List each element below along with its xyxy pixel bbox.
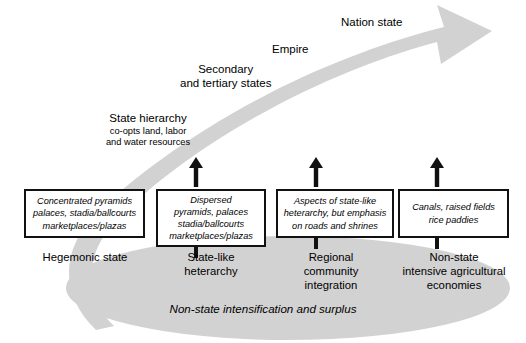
curve-label-empire: Empire (272, 43, 308, 57)
box-1-line-3: marketplaces/plazas (43, 221, 127, 231)
state-hierarchy-heading: State hierarchy (82, 112, 214, 126)
curve-label-nation-state: Nation state (341, 16, 402, 30)
caption-4-line-3: economies (427, 279, 482, 291)
caption-3-line-2: community (304, 265, 359, 277)
curve-label-state-hierarchy: State hierarchy co-opts land, labor and … (82, 112, 214, 148)
box-2-line-3: stadia/ballcourts (178, 219, 244, 229)
box-state-like-heterarchy-text: Dispersed pyramids, palaces stadia/ballc… (166, 194, 256, 243)
state-hierarchy-subline-2: and water resources (82, 137, 214, 148)
caption-4-line-2: intensive agricultural (403, 265, 506, 277)
box-3-line-2: heterarchy, but emphasis (284, 208, 386, 218)
caption-1-line-1: Hegemonic state (43, 251, 128, 263)
box-1-line-2: palaces, stadia/ballcourts (33, 208, 136, 218)
box-3-line-1: Aspects of state-like (294, 196, 376, 206)
box-3-line-3: on roads and shrines (292, 221, 378, 231)
box-non-state-agriculture-text: Canals, raised fields rice paddies (409, 201, 498, 225)
box-regional-community-integration: Aspects of state-like heterarchy, but em… (276, 189, 394, 238)
box-2-line-2: pyramids, palaces (174, 207, 248, 217)
up-arrow-state-like-heterarchy (189, 157, 203, 187)
curve-label-secondary-line-2: and tertiary states (180, 77, 271, 89)
caption-4-line-1: Non-state (430, 251, 479, 263)
box-2-line-1: Dispersed (190, 195, 231, 205)
caption-hegemonic-state: Hegemonic state (22, 251, 148, 265)
up-arrow-regional-community-integration (309, 157, 323, 187)
box-regional-community-integration-text: Aspects of state-like heterarchy, but em… (281, 195, 389, 231)
caption-2-line-2: heterarchy (184, 265, 237, 277)
caption-3-line-3: integration (305, 279, 358, 291)
curve-label-secondary-tertiary-states: Secondary and tertiary states (180, 63, 271, 90)
box-4-line-1: Canals, raised fields (412, 202, 495, 212)
box-2-line-4: marketplaces/plazas (169, 231, 253, 241)
curve-label-secondary-line-1: Secondary (198, 63, 253, 75)
ellipse-caption-non-state-intensification: Non-state intensification and surplus (0, 302, 526, 315)
caption-state-like-heterarchy: State-like heterarchy (151, 251, 271, 279)
stub-non-state-intensive-agriculture (435, 238, 439, 249)
state-hierarchy-subline-1: co-opts land, labor (82, 126, 214, 137)
box-non-state-intensive-agricultural-economies: Canals, raised fields rice paddies (398, 189, 509, 238)
caption-non-state-intensive-agricultural-economies: Non-state intensive agricultural economi… (389, 251, 519, 292)
box-state-like-heterarchy: Dispersed pyramids, palaces stadia/ballc… (156, 189, 266, 247)
box-4-line-2: rice paddies (429, 215, 479, 225)
caption-regional-community-integration: Regional community integration (271, 251, 391, 292)
caption-3-line-1: Regional (309, 251, 354, 263)
box-hegemonic-state: Concentrated pyramids palaces, stadia/ba… (24, 189, 145, 238)
diagram-canvas: Nation state Empire Secondary and tertia… (0, 0, 526, 343)
box-1-line-1: Concentrated pyramids (37, 196, 132, 206)
box-hegemonic-state-text: Concentrated pyramids palaces, stadia/ba… (30, 195, 139, 231)
caption-2-line-1: State-like (187, 251, 234, 263)
stub-regional-community-integration (314, 238, 318, 249)
up-arrow-non-state-intensive-agriculture (430, 157, 444, 187)
